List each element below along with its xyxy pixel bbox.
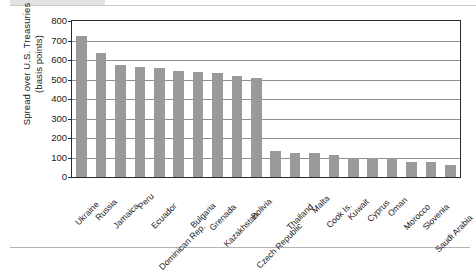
y-tick-label: 600 xyxy=(51,55,67,65)
bar xyxy=(309,153,320,177)
x-tick-label: Czech Republic xyxy=(255,222,304,271)
bar xyxy=(348,158,359,177)
y-tick-label: 100 xyxy=(51,153,67,163)
bar xyxy=(212,73,223,177)
bar xyxy=(96,53,107,177)
bar xyxy=(115,65,126,177)
y-tick-label: 300 xyxy=(51,114,67,124)
bar xyxy=(406,162,417,177)
x-tick-label: Dominican Rep. xyxy=(157,222,207,272)
bar xyxy=(193,72,204,177)
bar xyxy=(367,158,378,177)
x-tick-label: Saudi Arabia xyxy=(434,213,475,254)
bar xyxy=(426,162,437,177)
bar xyxy=(445,165,456,177)
y-tick-label: 700 xyxy=(51,36,67,46)
bar xyxy=(154,68,165,177)
x-tick-label: Oman xyxy=(386,196,409,219)
top-rule xyxy=(10,5,476,6)
y-tick-label: 200 xyxy=(51,133,67,143)
x-tick-label: Bolivia xyxy=(250,197,274,221)
bar xyxy=(270,151,281,177)
bar xyxy=(387,158,398,177)
bar xyxy=(251,78,262,177)
bar xyxy=(76,36,87,177)
bar xyxy=(232,76,243,177)
x-axis-ticklabels: UkraineRussiaJamaicaPeruEcuadorDominican… xyxy=(72,179,460,259)
bar xyxy=(329,155,340,177)
y-tick-label: 500 xyxy=(51,75,67,85)
x-tick-label: Malta xyxy=(310,194,331,215)
y-axis-ticklabels: 8007006005004003002001000 xyxy=(40,20,71,178)
y-tick-label: 400 xyxy=(51,94,67,104)
x-tick-label: Peru xyxy=(136,192,155,211)
bar xyxy=(173,71,184,177)
y-tick-label: 800 xyxy=(51,16,67,26)
x-tick-label: Ecuador xyxy=(150,202,179,231)
bar-series xyxy=(72,21,460,177)
y-tick-label: 0 xyxy=(62,172,67,182)
bar xyxy=(135,67,146,177)
bar xyxy=(290,153,301,177)
